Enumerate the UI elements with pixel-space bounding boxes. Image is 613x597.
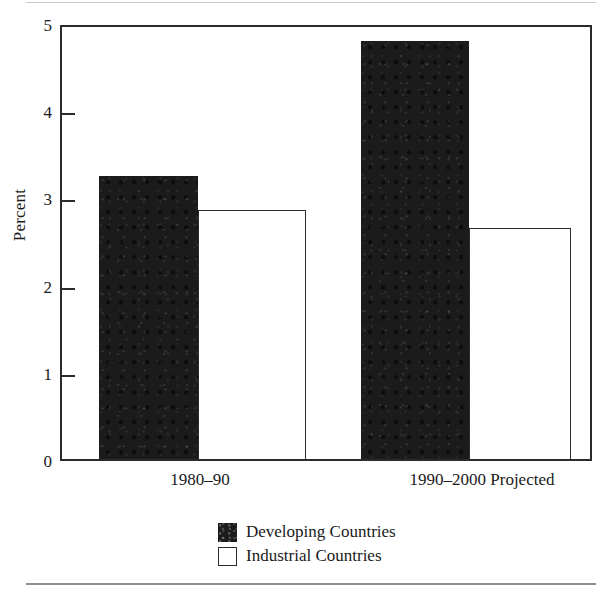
x-tick-label-1980-90: 1980–90: [110, 470, 290, 490]
x-tick-label-1990-2000-projected: 1990–2000 Projected: [372, 470, 592, 490]
legend-item-industrial-countries[interactable]: Industrial Countries: [218, 544, 478, 568]
y-tick-label-5: 5: [26, 17, 52, 34]
legend-swatch-outline-icon: [218, 547, 237, 566]
y-tick-label-1: 1: [26, 366, 52, 383]
y-tick-label-2: 2: [26, 279, 52, 296]
y-axis-tick-4: [62, 113, 75, 115]
y-axis-tick-2: [62, 288, 75, 290]
legend-item-developing-countries[interactable]: Developing Countries: [218, 520, 478, 544]
y-tick-label-4: 4: [26, 104, 52, 121]
y-tick-label-0: 0: [26, 453, 52, 470]
chart-legend: Developing Countries Industrial Countrie…: [218, 520, 478, 568]
y-axis-tick-1: [62, 375, 75, 377]
bar-industrial-1980-90[interactable]: [198, 210, 306, 459]
legend-label-industrial-countries: Industrial Countries: [246, 546, 382, 566]
y-axis-tick-3: [62, 200, 75, 202]
bottom-horizontal-rule: [26, 583, 596, 585]
y-axis-title: Percent: [10, 173, 30, 257]
legend-swatch-dark-icon: [218, 523, 237, 542]
bar-developing-1980-90[interactable]: [99, 176, 198, 459]
plot-area: [60, 25, 592, 461]
bar-developing-1990-2000[interactable]: [361, 41, 469, 459]
legend-label-developing-countries: Developing Countries: [246, 522, 396, 542]
bar-industrial-1990-2000[interactable]: [469, 228, 571, 459]
bar-chart-figure: Percent 0 1 2 3 4 5 1980–90 1990–2000 Pr…: [0, 0, 613, 597]
top-horizontal-rule: [26, 2, 596, 3]
y-tick-label-3: 3: [26, 191, 52, 208]
